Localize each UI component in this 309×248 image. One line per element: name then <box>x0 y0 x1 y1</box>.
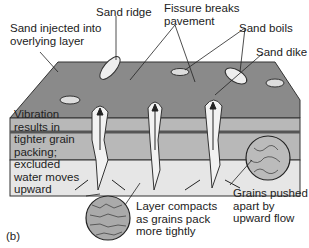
label-fissure: Fissure breaks pavement <box>164 2 239 27</box>
label-sand-injected: Sand injected into overlying layer <box>10 22 101 47</box>
label-layer-compacts: Layer compacts as grains pack more tight… <box>136 200 217 238</box>
label-vibration: Vibration results in tighter grain packi… <box>14 108 79 196</box>
label-sand-boils: Sand boils <box>239 22 293 35</box>
loose-grains-inset <box>246 136 290 180</box>
label-grains-pushed: Grains pushed apart by upward flow <box>233 187 308 225</box>
sand-boil <box>266 79 284 87</box>
label-sand-dike: Sand dike <box>256 46 307 59</box>
label-sand-ridge: Sand ridge <box>96 6 152 19</box>
compacted-grains-inset <box>86 196 130 240</box>
sand-boil <box>60 96 80 104</box>
panel-label: (b) <box>6 230 20 243</box>
